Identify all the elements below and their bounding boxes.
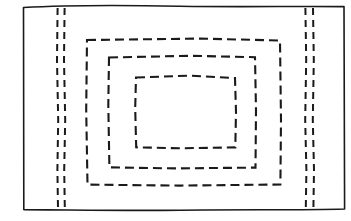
right-dashed-line-outer: [313, 8, 314, 208]
diagram-background: [0, 0, 351, 221]
left-dashed-line-inner: [57, 8, 58, 208]
left-dashed-line-outer: [64, 8, 65, 208]
right-dashed-line-inner: [305, 8, 306, 208]
diagram-svg: [0, 0, 351, 221]
diagram-canvas: [0, 0, 351, 221]
